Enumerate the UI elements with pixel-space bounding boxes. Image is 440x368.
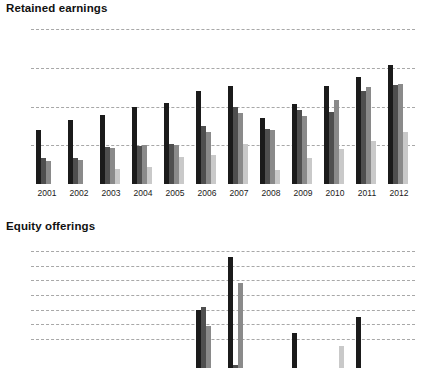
bar — [292, 104, 296, 184]
x-axis-tick-label: 2007 — [230, 188, 249, 198]
bar — [73, 158, 77, 184]
bar — [334, 100, 338, 184]
bar — [132, 107, 136, 185]
bar — [233, 107, 237, 185]
panel-title-retained-earnings: Retained earnings — [6, 2, 107, 14]
bar — [265, 129, 269, 184]
bar — [356, 77, 360, 184]
bar-group — [319, 244, 351, 368]
bar — [41, 158, 45, 184]
x-axis-tick-label: 2005 — [166, 188, 185, 198]
bar-group — [383, 244, 415, 368]
chart-page: Retained earnings 0100200300400 20012002… — [0, 0, 440, 368]
bar — [260, 118, 264, 184]
bar-group — [351, 29, 383, 184]
bar — [68, 120, 72, 184]
x-axis-tick-label: 2004 — [134, 188, 153, 198]
x-axis-tick-label: 2002 — [70, 188, 89, 198]
bar-group — [351, 244, 383, 368]
bar — [329, 112, 333, 184]
bar-group — [287, 244, 319, 368]
bar-group — [127, 244, 159, 368]
x-axis-tick-label: 2008 — [262, 188, 281, 198]
bar — [179, 157, 183, 185]
bar — [388, 65, 392, 184]
bar-group — [31, 29, 63, 184]
bar — [105, 147, 109, 184]
bar-group — [31, 244, 63, 368]
bar-group — [287, 29, 319, 184]
bar — [46, 161, 50, 184]
bar-group — [159, 244, 191, 368]
bar-group — [319, 29, 351, 184]
bar-group — [383, 29, 415, 184]
bar-group — [191, 244, 223, 368]
bar — [78, 160, 82, 184]
bar-group — [223, 29, 255, 184]
bar-group — [95, 244, 127, 368]
bar — [142, 145, 146, 184]
panel-retained-earnings: Retained earnings 0100200300400 20012002… — [0, 0, 440, 206]
x-axis-tick-label: 2010 — [326, 188, 345, 198]
bar — [270, 130, 274, 184]
x-axis-tick-label: 2006 — [198, 188, 217, 198]
bar — [147, 167, 151, 184]
bar-group — [255, 244, 287, 368]
bar — [169, 144, 173, 184]
bar — [115, 169, 119, 184]
bar — [243, 144, 247, 184]
bar-group — [159, 29, 191, 184]
bar — [196, 91, 200, 184]
bar — [339, 149, 343, 184]
bar — [403, 132, 407, 184]
bar — [366, 87, 370, 184]
bar-group — [63, 29, 95, 184]
bar — [292, 333, 296, 368]
bar — [398, 84, 402, 184]
x-axis-tick-label: 2009 — [294, 188, 313, 198]
bar — [174, 145, 178, 184]
bar — [164, 103, 168, 184]
bar — [297, 110, 301, 184]
panel-equity-offerings: Equity offerings 20304050607080 — [0, 218, 440, 368]
x-axis-tick-label: 2003 — [102, 188, 121, 198]
bar — [201, 126, 205, 184]
plot-area-retained-earnings: 0100200300400 — [31, 29, 415, 184]
x-axis-tick-label: 2011 — [358, 188, 376, 198]
bar — [393, 85, 397, 184]
bar-group — [255, 29, 287, 184]
bar — [238, 283, 242, 368]
bar — [206, 132, 210, 184]
bar — [339, 346, 343, 368]
bar — [361, 91, 365, 184]
plot-area-equity-offerings: 20304050607080 — [31, 244, 415, 368]
bar-group — [63, 244, 95, 368]
bar — [110, 148, 114, 184]
bar — [307, 158, 311, 184]
bar — [238, 113, 242, 184]
x-axis-tick-label: 2001 — [38, 188, 57, 198]
bar-group — [223, 244, 255, 368]
bar — [196, 310, 200, 368]
panel-title-equity-offerings: Equity offerings — [6, 220, 95, 232]
bar — [275, 170, 279, 184]
bar — [211, 155, 215, 184]
bar-group — [191, 29, 223, 184]
bar — [228, 86, 232, 184]
x-axis-tick-label: 2012 — [390, 188, 409, 198]
bar — [206, 326, 210, 368]
bar-group — [95, 29, 127, 184]
bar — [324, 86, 328, 184]
bar — [302, 116, 306, 184]
bar — [371, 141, 375, 184]
bar — [137, 146, 141, 184]
bar — [356, 317, 360, 368]
bar — [228, 257, 232, 368]
bar — [201, 307, 205, 368]
bar-group — [127, 29, 159, 184]
bar — [100, 115, 104, 184]
bar — [36, 130, 40, 184]
